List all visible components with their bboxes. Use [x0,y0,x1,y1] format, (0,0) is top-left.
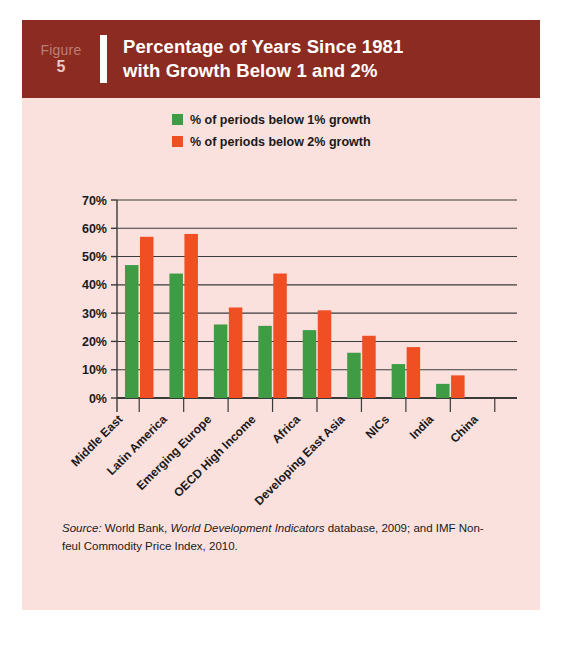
source-publication-title: World Development Indicators [170,522,324,534]
y-axis-tick-label: 40% [82,278,107,292]
x-axis-category-label: India [407,412,437,442]
bar [436,384,450,398]
legend-item-below-1pct: % of periods below 1% growth [172,112,472,127]
y-axis-tick-label: 10% [82,363,107,377]
bar [392,364,406,398]
x-axis-category-label: Latin America [104,412,170,478]
figure-title-line-2: with Growth Below 1 and 2% [123,59,403,83]
x-axis-category-label: Middle East [68,412,125,469]
y-axis-tick-label: 60% [82,222,107,236]
figure-header-band: Figure 5 Percentage of Years Since 1981 … [22,20,540,98]
source-note: Source: World Bank, World Development In… [62,520,502,556]
figure-panel: Figure 5 Percentage of Years Since 1981 … [22,20,540,610]
bar [214,324,228,398]
header-divider-rule [100,35,107,83]
bar [362,336,376,398]
source-text-1: World Bank, [102,522,171,534]
figure-number: 5 [22,58,100,76]
x-axis-category-label: NICs [363,412,392,441]
x-axis-category-label: Emerging Europe [134,412,215,493]
bar [407,347,421,398]
x-axis-category-label: China [447,412,481,446]
bar [451,375,465,398]
y-axis-tick-label: 0% [89,392,107,406]
legend-item-below-2pct: % of periods below 2% growth [172,134,472,149]
figure-number-block: Figure 5 [22,42,100,76]
x-axis-category-label: Africa [269,412,303,446]
y-axis-tick-label: 50% [82,250,107,264]
figure-title-line-1: Percentage of Years Since 1981 [123,35,403,59]
legend-label-below-2pct: % of periods below 2% growth [190,135,371,149]
y-axis-tick-label: 20% [82,335,107,349]
source-prefix: Source: [62,522,102,534]
bar [169,274,183,398]
bar [303,330,317,398]
figure-title: Percentage of Years Since 1981 with Grow… [123,35,403,82]
legend-swatch-green-icon [172,114,183,125]
figure-page: Figure 5 Percentage of Years Since 1981 … [0,0,562,668]
bar [140,237,154,398]
bar [125,265,139,398]
x-axis-category-label: OECD High Income [171,412,259,500]
legend-label-below-1pct: % of periods below 1% growth [190,113,371,127]
y-axis-tick-label: 70% [82,194,107,208]
bar [273,274,287,398]
y-axis-tick-label: 30% [82,307,107,321]
legend-swatch-red-icon [172,136,183,147]
figure-label-word: Figure [22,42,100,58]
bar [318,310,332,398]
x-axis-category-label: Developing East Asia [252,412,348,508]
bar [184,234,198,398]
bar [229,307,243,398]
bar [258,326,272,398]
bar [347,353,361,398]
chart-legend: % of periods below 1% growth % of period… [172,112,472,156]
